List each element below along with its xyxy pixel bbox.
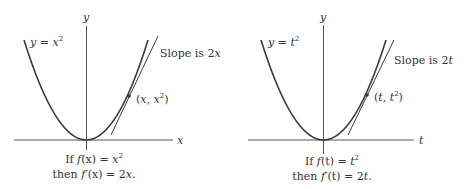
point-label: (x, x2) [136,92,169,106]
tangent-line [111,36,158,135]
caption-line-1: If f(x) = x2 [65,152,123,166]
y-axis-label: y [319,11,327,24]
caption-line-2: then f′(x) = 2x. [53,168,136,181]
slope-label: Slope is 2x [160,47,221,60]
t-axis-label: t [419,134,424,147]
y-axis-label: y [82,11,90,24]
caption-line-2: then f′(t) = 2t. [292,170,371,183]
tangency-point [127,94,131,98]
tangent-line [348,40,394,135]
x-axis-label: x [177,134,184,147]
tangency-point [365,93,369,97]
diagram-left: x y y = x2 Slope is 2x (x, x2) If f(x) =… [14,11,221,181]
slope-label: Slope is 2t [394,54,453,67]
caption-line-1: If f(t) = t2 [305,154,359,168]
curve-label: y = t2 [267,35,299,49]
point-label: (t, t2) [374,90,403,104]
curve-label: y = x2 [29,35,63,49]
derivative-diagrams: x y y = x2 Slope is 2x (x, x2) If f(x) =… [0,0,468,189]
diagram-right: t y y = t2 Slope is 2t (t, t2) If f(t) =… [248,11,453,183]
